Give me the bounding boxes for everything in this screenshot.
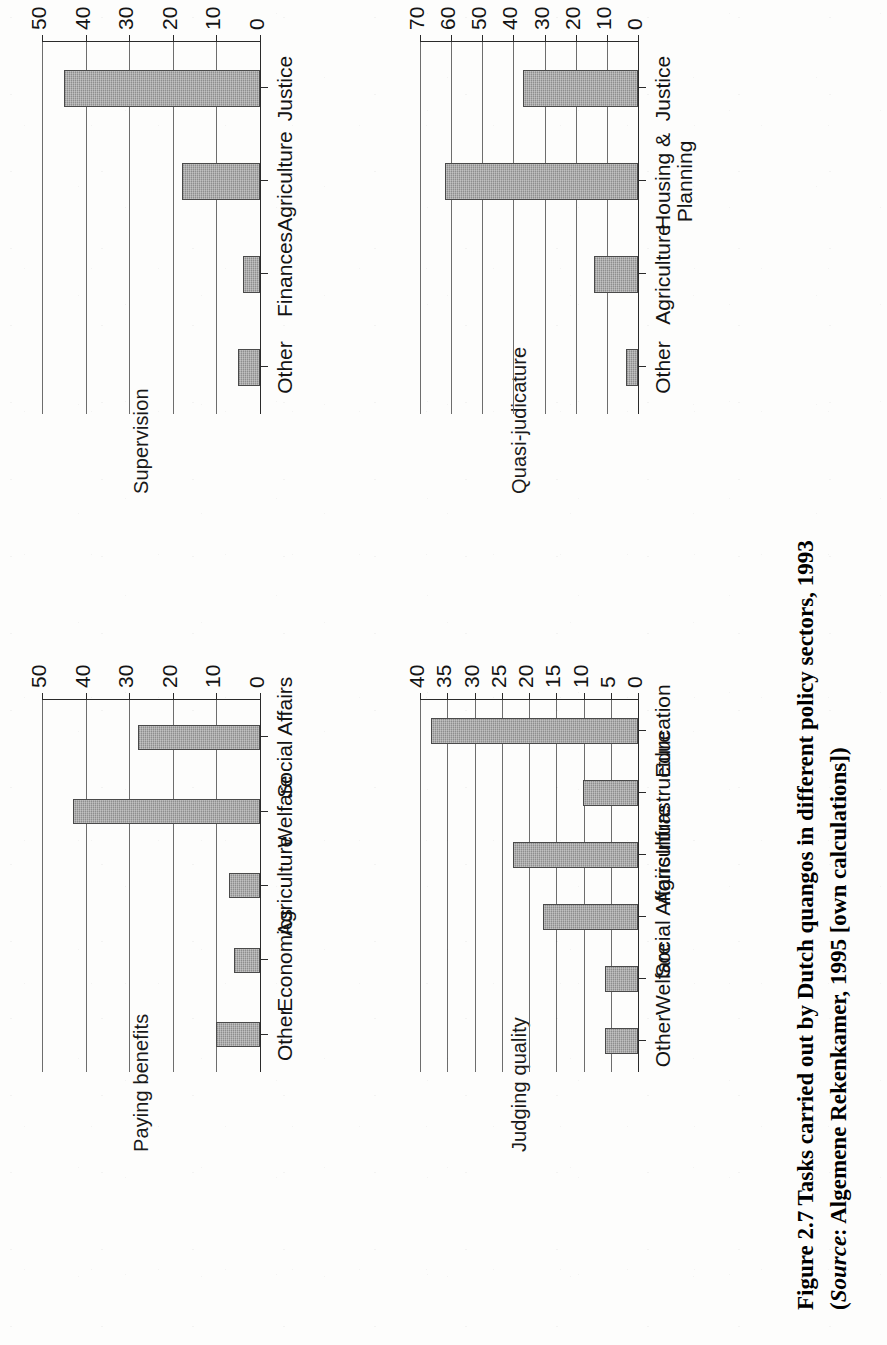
plot-area-supervision: 01020304050 <box>42 42 260 414</box>
y-axis-tick-label: 25 <box>487 636 511 688</box>
y-axis-tick-label: 0 <box>623 0 647 30</box>
gridline <box>475 700 476 1072</box>
category-label-line: Other <box>274 1009 296 1062</box>
y-axis-tick-label: 40 <box>498 0 522 30</box>
category-label: Social Affairs <box>274 677 296 798</box>
y-axis-tick-label: 20 <box>158 636 182 688</box>
gridline <box>42 42 43 414</box>
bar <box>513 842 638 868</box>
bar <box>431 718 638 744</box>
axis-tick <box>260 693 261 700</box>
category-tick <box>638 273 646 274</box>
category-label-line: Finances <box>274 232 296 317</box>
bar <box>605 1028 638 1054</box>
category-tick <box>638 792 646 793</box>
y-axis-tick-label: 50 <box>467 0 491 30</box>
y-axis-tick-label: 60 <box>436 0 460 30</box>
gridline <box>447 700 448 1072</box>
chart-judging-quality-container: Judging quality 0510152025303540 OtherWe… <box>412 688 712 1158</box>
gridline <box>529 700 530 1072</box>
figure-caption-line-1: Figure 2.7 Tasks carried out by Dutch qu… <box>790 100 823 1310</box>
category-label: Other <box>274 341 296 394</box>
y-axis-tick-label: 10 <box>201 0 225 30</box>
bar <box>626 349 638 386</box>
category-label: Agriculture <box>274 836 296 936</box>
gridline <box>86 700 87 1072</box>
gridline <box>482 42 483 414</box>
bar <box>182 163 260 200</box>
y-axis-tick-label: 10 <box>569 636 593 688</box>
category-tick <box>260 1034 268 1035</box>
category-label-line: Housing & <box>652 133 674 230</box>
value-axis-spine <box>42 41 260 42</box>
y-axis-tick-label: 40 <box>405 636 429 688</box>
chart-supervision-container: Supervision 01020304050 OtherFinancesAgr… <box>34 30 334 500</box>
category-tick <box>260 959 268 960</box>
category-label: Other <box>274 1009 296 1062</box>
category-label: Agriculture <box>652 224 674 324</box>
category-tick <box>638 978 646 979</box>
y-axis-tick-label: 40 <box>71 636 95 688</box>
gridline <box>611 700 612 1072</box>
category-label-line: Planning <box>674 133 696 230</box>
category-label-line: Agriculture <box>274 836 296 936</box>
chart-quasi-judicature-container: Quasi-judicature 010203040506070 OtherAg… <box>412 30 712 500</box>
gridline <box>420 700 421 1072</box>
category-tick <box>260 366 268 367</box>
y-axis-tick-label: 20 <box>514 636 538 688</box>
bar <box>73 799 260 824</box>
scanned-figure-page: Paying benefits 01020304050 OtherEconomi… <box>0 0 887 1345</box>
gridline <box>584 700 585 1072</box>
category-label-line: Agriculture <box>652 224 674 324</box>
baseline-axis <box>638 700 639 1072</box>
y-axis-tick-label: 30 <box>114 636 138 688</box>
category-label: Justice <box>652 56 674 121</box>
category-tick <box>638 87 646 88</box>
y-axis-tick-label: 30 <box>114 0 138 30</box>
axis-tick <box>638 35 639 42</box>
gridline <box>216 700 217 1072</box>
plot-area-judging-quality: 0510152025303540 <box>420 700 638 1072</box>
category-label: Agriculture <box>274 131 296 231</box>
baseline-axis <box>638 42 639 414</box>
category-label-line: Agriculture <box>274 131 296 231</box>
figure-caption-container: Figure 2.7 Tasks carried out by Dutch qu… <box>790 100 855 1310</box>
category-label-line: Education <box>652 684 674 777</box>
category-tick <box>638 366 646 367</box>
category-tick <box>638 916 646 917</box>
gridline <box>420 42 421 414</box>
chart-quasi-judicature: Quasi-judicature 010203040506070 OtherAg… <box>412 30 712 500</box>
category-tick <box>260 87 268 88</box>
category-tick <box>260 885 268 886</box>
caption-source-rest: : Algemene Rekenkamer, 1995 [own calcula… <box>826 747 851 1236</box>
y-axis-tick-label: 20 <box>561 0 585 30</box>
y-axis-tick-label: 0 <box>245 636 269 688</box>
category-label-line: Other <box>274 341 296 394</box>
y-axis-tick-label: 30 <box>530 0 554 30</box>
category-tick <box>638 730 646 731</box>
baseline-axis <box>260 42 261 414</box>
bar <box>523 70 638 107</box>
bar <box>229 873 260 898</box>
category-label-line: Other <box>652 1015 674 1068</box>
value-axis-spine <box>420 699 638 700</box>
bar <box>605 966 638 992</box>
gridline <box>556 700 557 1072</box>
y-axis-tick-label: 0 <box>623 636 647 688</box>
category-label: Housing &Planning <box>652 133 696 230</box>
category-tick <box>638 1040 646 1041</box>
y-axis-tick-label: 50 <box>27 0 51 30</box>
y-axis-tick-label: 20 <box>158 0 182 30</box>
chart-paying-benefits-container: Paying benefits 01020304050 OtherEconomi… <box>34 688 334 1158</box>
y-axis-tick-label: 10 <box>592 0 616 30</box>
gridline <box>513 42 514 414</box>
y-axis-tick-label: 40 <box>71 0 95 30</box>
chart-paying-benefits: Paying benefits 01020304050 OtherEconomi… <box>34 688 334 1158</box>
bar <box>543 904 638 930</box>
gridline <box>129 700 130 1072</box>
bar <box>243 256 260 293</box>
plot-area-quasi-judicature: 010203040506070 <box>420 42 638 414</box>
category-label: Other <box>652 1015 674 1068</box>
gridline <box>42 700 43 1072</box>
category-tick <box>260 811 268 812</box>
